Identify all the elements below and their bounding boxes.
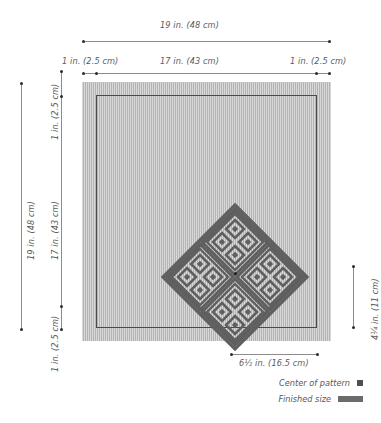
dimension-endpoint [60, 70, 63, 73]
dimension-line-left-overall [21, 83, 22, 330]
diagram-canvas: 19 in. (48 cm) 1 in. (2.5 cm) 17 in. (43… [0, 0, 381, 423]
center-of-pattern-marker [234, 272, 237, 275]
dimension-label-top-inner: 17 in. (43 cm) [160, 56, 219, 66]
dimension-endpoint [82, 72, 85, 75]
center-of-pattern-swatch-icon [357, 380, 363, 386]
dimension-label-top-margin-left: 1 in. (2.5 cm) [62, 56, 118, 66]
dimension-label-left-inner: 17 in. (43 cm) [50, 201, 60, 260]
dimension-line-right-pattern-height [353, 266, 354, 328]
dimension-tick [315, 72, 318, 75]
dimension-label-right-pattern-height: 4¼ in. (11 cm) [370, 278, 380, 340]
dimension-tick [95, 72, 98, 75]
dimension-endpoint [328, 40, 331, 43]
dimension-endpoint [20, 328, 23, 331]
dimension-label-left-margin-top: 1 in. (2.5 cm) [50, 84, 60, 140]
dimension-label-top-margin-right: 1 in. (2.5 cm) [290, 56, 346, 66]
dimension-line-top-segmented [83, 73, 330, 74]
dimension-endpoint [82, 40, 85, 43]
legend-center-of-pattern-label: Center of pattern [279, 378, 350, 388]
legend-finished-size: Finished size [278, 394, 363, 404]
dimension-endpoint [20, 82, 23, 85]
dimension-endpoint [328, 72, 331, 75]
dimension-line-bottom-pattern-width [231, 354, 318, 355]
dimension-label-bottom-pattern-width: 6½ in. (16.5 cm) [239, 358, 309, 368]
dimension-endpoint [352, 265, 355, 268]
dimension-endpoint [316, 353, 319, 356]
dimension-endpoint [352, 326, 355, 329]
dimension-label-left-overall: 19 in. (48 cm) [26, 201, 36, 260]
dimension-tick [60, 305, 63, 308]
dimension-label-top-overall: 19 in. (48 cm) [160, 20, 219, 30]
dimension-label-left-margin-bottom: 1 in. (2.5 cm) [50, 316, 60, 372]
finished-size-swatch-icon [338, 396, 363, 402]
dimension-line-left-segmented [61, 71, 62, 330]
dimension-tick [60, 95, 63, 98]
dimension-endpoint [60, 328, 63, 331]
quilting-pattern-diamond [160, 202, 310, 352]
dimension-line-top-overall [83, 41, 330, 42]
dimension-endpoint [230, 353, 233, 356]
legend-finished-size-label: Finished size [278, 394, 331, 404]
legend-center-of-pattern: Center of pattern [279, 378, 363, 388]
